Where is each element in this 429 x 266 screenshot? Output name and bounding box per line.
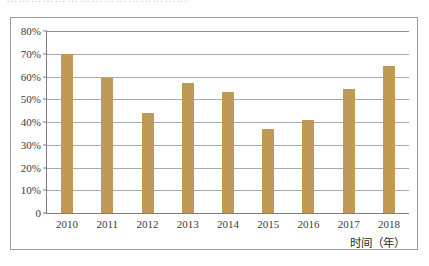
y-axis-tick-mark — [43, 53, 47, 54]
y-axis-tick-label: 50% — [21, 93, 41, 105]
y-axis-tick-mark — [43, 99, 47, 100]
bar-2013 — [182, 83, 194, 213]
x-axis-tick-label: 2016 — [297, 218, 319, 230]
x-axis-tick-label: 2015 — [257, 218, 279, 230]
bar-2011 — [101, 78, 113, 213]
y-axis-tick-label: 0 — [36, 207, 42, 219]
x-axis-tick-label: 2010 — [56, 218, 78, 230]
y-axis-tick-label: 40% — [21, 116, 41, 128]
x-axis-tick-label: 2018 — [378, 218, 400, 230]
x-axis-title: 时间（年） — [350, 234, 405, 250]
y-axis-tick-mark — [43, 31, 47, 32]
x-axis-tick-label: 2013 — [177, 218, 199, 230]
bar-2010 — [61, 54, 73, 213]
bar-2018 — [383, 66, 395, 213]
x-axis-tick-label: 2012 — [137, 218, 159, 230]
bar-2012 — [142, 113, 154, 213]
chart-figure-frame: 010%20%30%40%50%60%70%80% 20102011201220… — [10, 17, 418, 250]
x-axis-tick-label: 2017 — [338, 218, 360, 230]
y-axis-tick-label: 70% — [21, 48, 41, 60]
y-axis-tick-label: 80% — [21, 25, 41, 37]
x-axis-tick-label: 2011 — [97, 218, 119, 230]
x-axis-tick-label: 2014 — [217, 218, 239, 230]
bar-2015 — [262, 129, 274, 213]
y-axis-tick-label: 20% — [21, 162, 41, 174]
clipped-caption-glyphs: ……………………………………… — [6, 0, 189, 4]
y-axis-tick-mark — [43, 213, 47, 214]
bar-2016 — [302, 120, 314, 213]
gridline — [47, 31, 409, 32]
bar-chart-plot-area: 010%20%30%40%50%60%70%80% 20102011201220… — [46, 31, 409, 214]
y-axis-tick-mark — [43, 167, 47, 168]
gridline — [47, 54, 409, 55]
bar-2014 — [222, 92, 234, 213]
bar-2017 — [343, 89, 355, 213]
y-axis-tick-mark — [43, 122, 47, 123]
y-axis-tick-mark — [43, 76, 47, 77]
y-axis-tick-label: 10% — [21, 184, 41, 196]
clipped-caption-text: ……………………………………… — [6, 0, 426, 9]
y-axis-tick-mark — [43, 190, 47, 191]
y-axis-tick-label: 30% — [21, 139, 41, 151]
y-axis-tick-mark — [43, 144, 47, 145]
y-axis-tick-label: 60% — [21, 71, 41, 83]
